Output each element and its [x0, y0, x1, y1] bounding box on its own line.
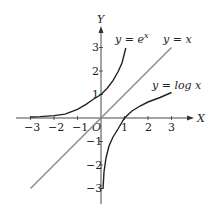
- y-tick-label: 3: [92, 41, 99, 54]
- y-tick-label: −1: [86, 135, 102, 148]
- y-tick-label: −2: [86, 159, 102, 172]
- x-tick-label: −3: [24, 121, 40, 134]
- x-axis-label: X: [196, 112, 206, 125]
- x-tick-label: 2: [145, 121, 152, 134]
- function-graph: X Y O −3 −2 −1 1 2 3 3 2 1 −1 −2 −3 y = …: [0, 0, 214, 214]
- y-axis-label: Y: [97, 13, 106, 26]
- identity-label: y = x: [162, 33, 192, 46]
- exp-label: y = ex: [114, 31, 149, 46]
- log-curve: [103, 93, 172, 190]
- log-label: y = log x: [151, 79, 202, 92]
- x-tick-label: 3: [168, 121, 175, 134]
- y-axis-arrow-icon: [99, 26, 104, 33]
- y-tick-label: 2: [92, 65, 99, 78]
- x-axis-arrow-icon: [187, 116, 194, 121]
- x-tick-label: −2: [48, 121, 64, 134]
- y-tick-label: −3: [86, 182, 102, 195]
- x-tick-label: −1: [72, 121, 88, 134]
